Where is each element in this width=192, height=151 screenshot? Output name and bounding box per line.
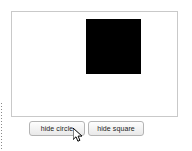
button-row: hide circle hide square (29, 121, 159, 136)
hide-square-button[interactable]: hide square (88, 121, 144, 136)
hide-circle-button[interactable]: hide circle (29, 121, 85, 136)
app-stage: hide circle hide square (0, 0, 192, 151)
black-square-shape (86, 19, 141, 74)
drawing-canvas (11, 11, 178, 117)
dotted-guide-line (1, 103, 2, 151)
